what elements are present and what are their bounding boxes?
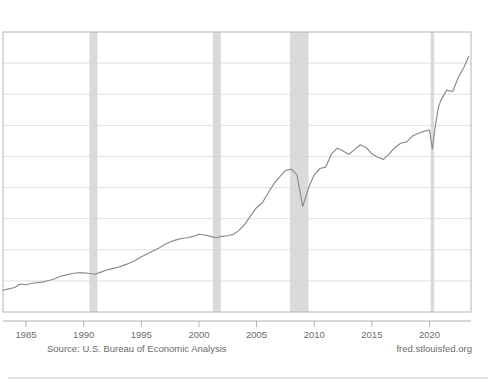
fred-chart-figure: 19851990199520002005201020152020 Source:… (0, 0, 496, 390)
recession-band (213, 32, 221, 312)
x-axis-tick-label: 2010 (304, 329, 325, 340)
plot-border (3, 32, 471, 312)
recession-band (290, 32, 308, 312)
recession-bands-group (89, 32, 434, 312)
recession-band (89, 32, 97, 312)
x-axis-tick-label: 1985 (15, 329, 36, 340)
x-axis-tick-label: 1995 (131, 329, 152, 340)
chart-source-note: Source: U.S. Bureau of Economic Analysis (47, 343, 227, 354)
chart-canvas: 19851990199520002005201020152020 Source:… (0, 0, 496, 390)
x-axis-tick-label: 1990 (73, 329, 94, 340)
plot-area-border (3, 32, 471, 312)
x-axis-tick-label: 2015 (361, 329, 382, 340)
recession-band (431, 32, 434, 312)
x-axis-tick-labels: 19851990199520002005201020152020 (15, 329, 440, 340)
series-group (3, 57, 469, 291)
x-axis-tick-label: 2005 (246, 329, 267, 340)
series-line (3, 57, 469, 291)
gridlines-group (3, 63, 471, 281)
x-axis-group (3, 321, 471, 327)
x-axis-tick-label: 2000 (188, 329, 209, 340)
fred-site-label: fred.stlouisfed.org (396, 343, 472, 354)
x-axis-tick-label: 2020 (419, 329, 440, 340)
